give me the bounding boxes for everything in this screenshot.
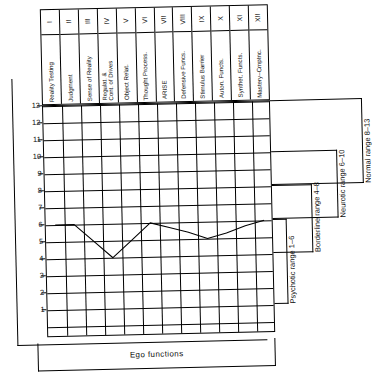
column-header-iii: IIISense of Reality [79, 9, 100, 103]
column-numeral: IX [192, 6, 210, 31]
column-numeral-label: V [122, 18, 129, 23]
column-numeral: XI [230, 6, 248, 31]
column-name: ARISE [155, 32, 174, 101]
column-header-vii: VIIARISE [154, 7, 175, 101]
column-numeral-label: III [84, 18, 91, 24]
column-name-label: Thought Process. [142, 51, 150, 100]
column-numeral: III [79, 9, 97, 34]
x-axis-label: Ego functions [130, 349, 184, 359]
column-numeral: X [211, 6, 229, 31]
plot-area [42, 100, 275, 337]
x-axis-label-box: Ego functions [37, 338, 276, 371]
column-name-label: Defensive Funcs. [180, 51, 188, 99]
column-numeral-label: VIII [179, 14, 187, 25]
column-header-table: IReality TestingIIJudgmentIIISense of Re… [40, 4, 270, 105]
column-name: Thought Process. [136, 33, 155, 102]
column-name-label: Regulat. &Cont. of Drives [101, 61, 114, 101]
column-header-v: VObject Relat. [116, 8, 137, 102]
range-brackets: Normal range 8–13Neurotic range 6–10Bord… [0, 0, 374, 4]
column-name-label: Judgment [67, 74, 74, 101]
column-name: Stimulus Barrier [193, 31, 212, 100]
ego-function-profile-figure: IReality TestingIIJudgmentIIISense of Re… [0, 0, 378, 385]
column-numeral-label: IX [198, 15, 205, 22]
column-numeral: IV [98, 9, 116, 34]
column-numeral-label: XII [254, 13, 262, 22]
range-bracket-label-normal: Normal range 8–13 [363, 98, 373, 183]
column-header-viii: VIIIDefensive Funcs. [173, 7, 194, 101]
column-header-xi: XISynthet. Functs. [230, 6, 251, 100]
column-numeral-label: VII [160, 15, 168, 24]
column-numeral: I [41, 10, 59, 35]
column-name-label: ARISE [162, 81, 169, 100]
range-bracket-psychotic [273, 219, 289, 304]
range-bracket-label-borderline: Borderline range 4–8 [313, 184, 322, 252]
column-name-label: Synthet. Functs. [237, 53, 245, 98]
column-numeral-label: I [46, 21, 53, 23]
column-header-i: IReality Testing [41, 10, 62, 104]
column-numeral: II [60, 9, 78, 34]
column-header-ix: IXStimulus Barrier [192, 6, 213, 100]
column-numeral: XII [249, 5, 267, 30]
column-numeral-label: IV [103, 17, 110, 24]
column-numeral: VI [135, 8, 153, 33]
column-name: Defensive Funcs. [174, 32, 193, 101]
column-name-label: Stimulus Barrier [199, 55, 206, 99]
column-name: Mastery–Cmptnc. [249, 30, 268, 99]
column-numeral-label: X [217, 16, 224, 21]
column-name: Sense of Reality [79, 34, 98, 103]
column-name-label: Mastery–Cmptnc. [256, 49, 264, 98]
column-name: Auton. Functs. [212, 31, 231, 100]
column-name: Regulat. &Cont. of Drives [98, 34, 117, 103]
column-name: Judgment [60, 34, 79, 103]
column-numeral: V [116, 8, 134, 33]
column-name: Object Relat. [117, 33, 136, 102]
column-header-xii: XIIMastery–Cmptnc. [249, 5, 269, 99]
column-numeral-label: VI [141, 17, 148, 24]
column-numeral-label: XI [235, 14, 242, 21]
column-header-ii: IIJudgment [60, 9, 81, 103]
column-header-vi: VIThought Process. [135, 8, 156, 102]
column-name-label: Sense of Reality [85, 56, 93, 101]
column-numeral: VII [154, 7, 172, 32]
column-header-x: XAuton. Functs. [211, 6, 232, 100]
range-bracket-label-neurotic: Neurotic range 6–10 [338, 149, 347, 217]
column-name: Synthet. Functs. [231, 31, 250, 100]
column-name-label: Auton. Functs. [218, 58, 225, 98]
column-name-label: Reality Testing [48, 62, 55, 102]
column-numeral: VIII [173, 7, 191, 32]
column-header-iv: IVRegulat. &Cont. of Drives [98, 9, 119, 103]
column-numeral-label: II [65, 20, 72, 24]
column-name-label: Object Relat. [123, 65, 130, 101]
column-name: Reality Testing [41, 35, 60, 104]
